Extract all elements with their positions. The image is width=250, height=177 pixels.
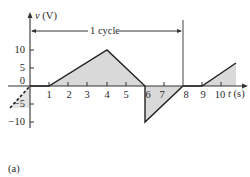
cycle-label: 1 cycle <box>90 25 120 36</box>
svg-text:6: 6 <box>145 89 150 100</box>
cycle-arrow-left-icon <box>31 29 36 33</box>
svg-text:9: 9 <box>200 89 205 100</box>
svg-text:4: 4 <box>104 89 110 100</box>
svg-text:1: 1 <box>46 89 51 100</box>
y-axis-arrow-icon <box>28 12 33 18</box>
svg-text:−5: −5 <box>14 98 25 109</box>
svg-text:2: 2 <box>66 89 71 100</box>
svg-text:5: 5 <box>123 89 128 100</box>
x-axis-label: t (s) <box>228 88 245 100</box>
svg-text:−10: −10 <box>9 116 25 127</box>
waveform-diagram: 1 cycle v (V) t (s) 10 5 0 −5 −10 1 2 3 … <box>0 0 250 177</box>
svg-text:0: 0 <box>20 75 25 86</box>
svg-text:10: 10 <box>215 89 226 100</box>
svg-text:7: 7 <box>159 89 164 100</box>
y-axis-label: v (V) <box>35 10 57 22</box>
svg-text:3: 3 <box>84 89 89 100</box>
panel-label: (a) <box>8 163 20 175</box>
cycle-arrow-right-icon <box>177 29 182 33</box>
x-tick-labels: 1 2 3 4 5 6 7 8 9 10 <box>46 89 225 100</box>
svg-text:5: 5 <box>20 62 25 73</box>
svg-text:8: 8 <box>183 89 188 100</box>
svg-text:10: 10 <box>15 44 26 55</box>
